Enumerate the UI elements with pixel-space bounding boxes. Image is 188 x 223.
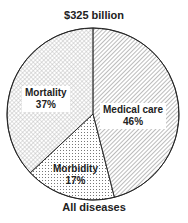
slice-label-morbidity: Morbidity 17% bbox=[50, 162, 101, 188]
medical-care-label: Medical care bbox=[103, 104, 163, 116]
morbidity-label: Morbidity bbox=[53, 163, 98, 175]
chart-caption: All diseases bbox=[0, 201, 188, 213]
mortality-percent: 37% bbox=[25, 99, 67, 111]
morbidity-percent: 17% bbox=[53, 175, 98, 187]
medical-care-percent: 46% bbox=[103, 116, 163, 128]
mortality-label: Mortality bbox=[25, 87, 67, 99]
slice-label-mortality: Mortality 37% bbox=[22, 86, 70, 112]
slice-label-medical-care: Medical care 46% bbox=[100, 103, 166, 129]
